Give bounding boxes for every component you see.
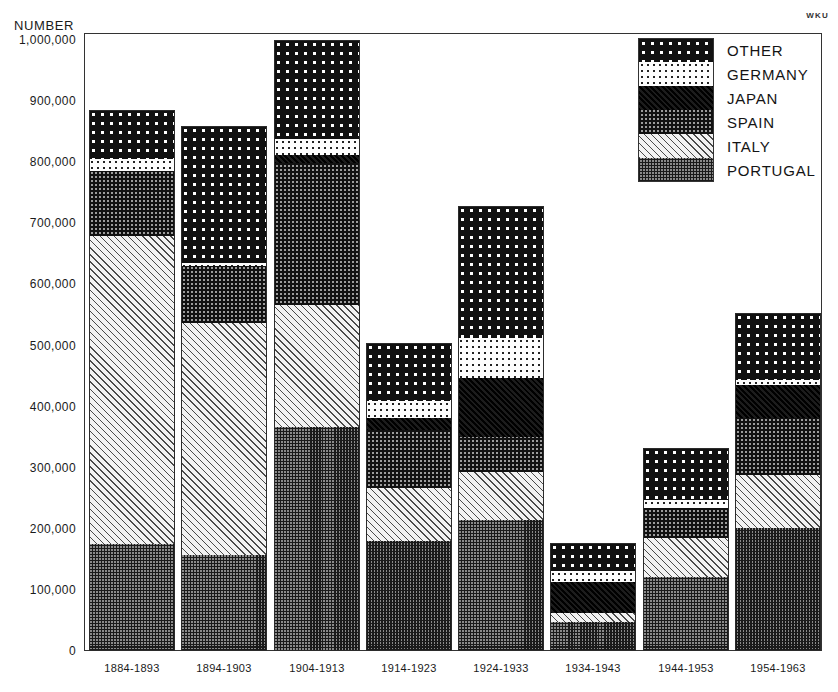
bar-segment-portugal[interactable] [366, 541, 452, 651]
bar-segment-portugal[interactable] [274, 427, 360, 651]
legend-row[interactable]: SPAIN [638, 110, 830, 134]
x-tick-label: 1914-1923 [381, 662, 436, 674]
bar-segment-portugal[interactable] [181, 555, 267, 651]
y-tick-label: 700,000 [30, 216, 76, 230]
x-tick-label: 1934-1943 [565, 662, 620, 674]
bar-column[interactable] [550, 33, 636, 651]
x-tick-label: 1884-1893 [104, 662, 159, 674]
legend-swatch-spain [638, 110, 714, 134]
bar-segment-japan[interactable] [366, 418, 452, 430]
legend-swatch-japan [638, 86, 714, 110]
bar-segment-spain[interactable] [274, 163, 360, 305]
bar-segment-germany[interactable] [458, 338, 544, 378]
bar-column[interactable] [458, 33, 544, 651]
bar-segment-other[interactable] [550, 543, 636, 571]
legend-label: PORTUGAL [727, 162, 816, 179]
y-axis: 1,000,000900,000800,000700,000600,000500… [0, 0, 84, 692]
bar-segment-other[interactable] [735, 313, 821, 380]
bar-segment-germany[interactable] [550, 571, 636, 582]
bar-segment-other[interactable] [458, 206, 544, 339]
x-tick-label: 1924-1933 [473, 662, 528, 674]
bar-column[interactable] [89, 33, 175, 651]
bar-segment-spain[interactable] [643, 508, 729, 538]
legend-row[interactable]: GERMANY [638, 62, 830, 86]
y-tick-label: 900,000 [30, 94, 76, 108]
y-tick-label: 800,000 [30, 155, 76, 169]
legend-label: ITALY [727, 138, 770, 155]
y-tick-label: 200,000 [30, 522, 76, 536]
bar-segment-other[interactable] [89, 110, 175, 159]
x-tick-label: 1944-1953 [658, 662, 713, 674]
bar-column[interactable] [274, 33, 360, 651]
legend-label: GERMANY [727, 66, 808, 83]
bar-segment-other[interactable] [366, 343, 452, 401]
bar-column[interactable] [366, 33, 452, 651]
bar-segment-other[interactable] [643, 448, 729, 500]
bar-segment-spain[interactable] [366, 430, 452, 488]
bar-segment-germany[interactable] [181, 263, 267, 266]
bar-segment-italy[interactable] [181, 323, 267, 555]
chart-legend: OTHERGERMANYJAPANSPAINITALYPORTUGAL [638, 38, 830, 182]
bar-segment-portugal[interactable] [458, 520, 544, 651]
bar-segment-italy[interactable] [643, 538, 729, 577]
x-tick-label: 1904-1913 [289, 662, 344, 674]
x-tick-label: 1894-1903 [196, 662, 251, 674]
bar-segment-spain[interactable] [181, 266, 267, 323]
y-tick-label: 1,000,000 [19, 33, 76, 47]
corner-watermark: WKU [806, 11, 829, 20]
bar-segment-japan[interactable] [550, 582, 636, 613]
legend-row[interactable]: OTHER [638, 38, 830, 62]
y-tick-label: 0 [69, 644, 76, 658]
bar-segment-portugal[interactable] [89, 544, 175, 651]
bar-segment-spain[interactable] [735, 418, 821, 475]
x-tick-label: 1954-1963 [750, 662, 805, 674]
bar-segment-portugal[interactable] [643, 577, 729, 651]
legend-label: OTHER [727, 42, 784, 59]
legend-label: SPAIN [727, 114, 775, 131]
bar-segment-germany[interactable] [735, 380, 821, 385]
bar-segment-japan[interactable] [274, 155, 360, 163]
bar-segment-japan[interactable] [458, 378, 544, 437]
y-tick-label: 300,000 [30, 461, 76, 475]
y-tick-label: 100,000 [30, 583, 76, 597]
bar-segment-italy[interactable] [458, 472, 544, 520]
bar-segment-spain[interactable] [89, 171, 175, 235]
bar-segment-italy[interactable] [735, 475, 821, 528]
bar-segment-spain[interactable] [458, 437, 544, 472]
bar-segment-germany[interactable] [366, 401, 452, 418]
legend-swatch-italy [638, 134, 714, 158]
stacked-bar-chart: NUMBER 1,000,000900,000800,000700,000600… [0, 0, 838, 692]
bar-column[interactable] [181, 33, 267, 651]
legend-swatch-portugal [638, 158, 714, 182]
legend-swatch-other [638, 38, 714, 62]
y-tick-label: 600,000 [30, 277, 76, 291]
bar-segment-italy[interactable] [366, 488, 452, 541]
legend-row[interactable]: JAPAN [638, 86, 830, 110]
bar-segment-italy[interactable] [274, 305, 360, 427]
bar-segment-germany[interactable] [89, 159, 175, 171]
bar-segment-germany[interactable] [274, 139, 360, 155]
legend-label: JAPAN [727, 90, 778, 107]
y-tick-label: 400,000 [30, 400, 76, 414]
bar-segment-other[interactable] [274, 40, 360, 139]
legend-row[interactable]: ITALY [638, 134, 830, 158]
bar-segment-italy[interactable] [89, 236, 175, 545]
bar-segment-other[interactable] [181, 126, 267, 263]
bar-segment-portugal[interactable] [735, 528, 821, 651]
legend-row[interactable]: PORTUGAL [638, 158, 830, 182]
x-axis: 1884-18931894-19031904-19131914-19231924… [84, 651, 822, 692]
y-tick-label: 500,000 [30, 339, 76, 353]
bar-segment-portugal[interactable] [550, 622, 636, 651]
bar-segment-germany[interactable] [643, 500, 729, 508]
bar-segment-japan[interactable] [735, 385, 821, 418]
bar-segment-italy[interactable] [550, 613, 636, 622]
legend-swatch-germany [638, 62, 714, 86]
